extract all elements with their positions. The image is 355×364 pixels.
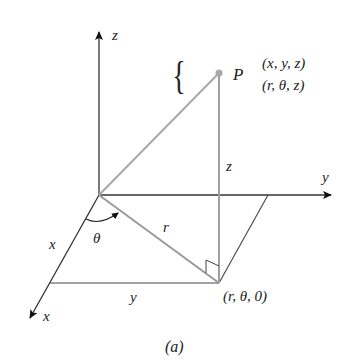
z-axis-label: z [111, 27, 118, 43]
projection-label: (r, θ, 0) [223, 288, 267, 305]
right-angle-marker [206, 260, 219, 273]
cylindrical-coordinates-diagram: z y x P { (x, y, z) (r, θ, z) z r θ x y … [0, 0, 355, 364]
brace: { [172, 53, 185, 97]
x-axis-label: x [42, 308, 50, 324]
theta-arc [86, 213, 118, 221]
point-p-label: P [232, 65, 243, 84]
z-segment-label: z [225, 158, 232, 174]
x-segment-label: x [48, 236, 56, 252]
cylindrical-coords: (r, θ, z) [262, 77, 304, 94]
x-parallel-line [219, 195, 268, 283]
r-segment [99, 195, 219, 283]
theta-label: θ [93, 230, 101, 246]
x-axis [30, 195, 99, 318]
r-segment-label: r [163, 219, 169, 235]
point-p [216, 70, 223, 77]
y-segment-label: y [128, 289, 137, 305]
cartesian-coords: (x, y, z) [262, 55, 305, 72]
y-axis-label: y [320, 169, 329, 185]
figure-caption: (a) [165, 338, 184, 356]
op-segment [99, 73, 219, 195]
